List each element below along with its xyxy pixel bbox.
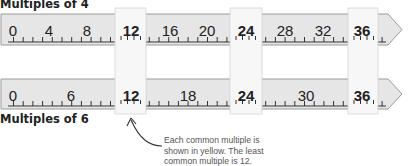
annotation-line-1: Each common multiple is <box>164 135 304 146</box>
ruler-label: 16 <box>162 22 179 39</box>
ruler-label: 8 <box>83 22 91 39</box>
annotation-line-2: shown in yellow. The least <box>164 146 304 157</box>
ruler-1 <box>1 79 402 109</box>
ruler-label: 12 <box>123 22 140 39</box>
ruler-label: 0 <box>9 22 17 39</box>
ruler-label: 24 <box>238 87 255 104</box>
ruler-label: 36 <box>354 22 371 39</box>
ruler-label: 20 <box>199 22 216 39</box>
ruler-label: 32 <box>315 22 332 39</box>
ruler-label: 30 <box>298 87 315 104</box>
annotation-text: Each common multiple is shown in yellow.… <box>164 135 304 166</box>
ruler-label: 4 <box>45 22 53 39</box>
ruler-label: 36 <box>354 87 371 104</box>
ruler-label: 28 <box>277 22 294 39</box>
ruler-label: 12 <box>123 87 140 104</box>
ruler-label: 18 <box>180 87 197 104</box>
ruler-label: 6 <box>67 87 75 104</box>
ruler-label: 24 <box>238 22 255 39</box>
ruler-label: 0 <box>9 87 17 104</box>
annotation-line-3: common multiple is 12. <box>164 156 304 166</box>
